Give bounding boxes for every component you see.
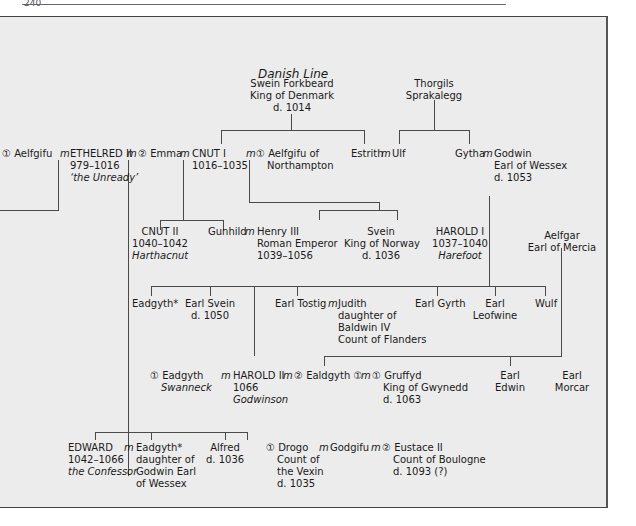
- person-godwin: Godwin Earl of Wessex d. 1053: [494, 148, 567, 184]
- marriage-symbol: m: [221, 370, 231, 382]
- person-eustace-ii: ② Eustace II Count of Boulogne d. 1093 (…: [382, 442, 486, 478]
- connector: [297, 286, 298, 296]
- person-ealdgyth: ② Ealdgyth ①: [294, 370, 362, 382]
- person-svein-norway: Svein King of Norway d. 1036: [344, 226, 418, 262]
- connector: [221, 130, 222, 144]
- person-judith: Judith daughter of Baldwin IV Count of F…: [338, 298, 427, 346]
- connector: [324, 356, 325, 366]
- person-earl-gyrth: Earl Gyrth: [415, 298, 466, 310]
- connector: [221, 130, 365, 131]
- person-earl-leofwine: Earl Leofwine: [472, 298, 518, 322]
- marriage-symbol: m: [60, 148, 70, 160]
- marriage-symbol: m: [371, 442, 381, 454]
- person-cnut-ii: CNUT II 1040–1042 Harthacnut: [132, 226, 188, 262]
- person-gytha: Gytha: [455, 148, 485, 160]
- person-drogo: ① Drogo Count of the Vexin d. 1035: [266, 442, 324, 490]
- connector: [183, 160, 184, 220]
- connector: [319, 210, 320, 220]
- connector: [379, 202, 380, 210]
- person-alfred: Alfred d. 1036: [206, 442, 244, 466]
- marriage-symbol: m: [245, 226, 255, 238]
- connector: [437, 286, 438, 296]
- connector: [128, 160, 129, 476]
- marriage-symbol: m: [180, 148, 190, 160]
- marriage-symbol: m: [127, 148, 137, 160]
- connector: [510, 356, 511, 366]
- person-earl-svein: Earl Svein d. 1050: [184, 298, 236, 322]
- person-harold-i: HAROLD I 1037–1040 Harefoot: [432, 226, 488, 262]
- connector: [489, 196, 490, 286]
- connector: [151, 286, 152, 296]
- connector: [225, 432, 226, 440]
- marriage-symbol: m: [381, 148, 391, 160]
- person-aelfgar: Aelfgar Earl of Mercia: [527, 230, 597, 254]
- person-gunhild: Gunhild: [208, 226, 247, 238]
- marriage-symbol: m: [246, 148, 256, 160]
- person-aelfgifu-northampton: ① Aelfgifu of Northampton: [256, 148, 334, 172]
- connector: [399, 130, 469, 131]
- person-godgifu: Godgifu: [330, 442, 369, 454]
- connector: [249, 160, 250, 202]
- connector: [0, 210, 59, 211]
- person-cnut-i: CNUT I 1016–1035: [192, 148, 248, 172]
- connector: [399, 130, 400, 144]
- marriage-symbol: m: [283, 370, 293, 382]
- marriage-symbol: m: [328, 298, 338, 310]
- person-gruffyd: ① Gruffyd King of Gwynedd d. 1063: [372, 370, 468, 406]
- marriage-symbol: m: [361, 370, 371, 382]
- person-earl-tostig: Earl Tostig: [275, 298, 326, 310]
- connector: [319, 210, 397, 211]
- connector: [397, 210, 398, 220]
- connector: [247, 432, 248, 440]
- connector: [58, 160, 59, 210]
- person-estrith: Estrith: [351, 148, 384, 160]
- person-earl-morcar: Earl Morcar: [550, 370, 594, 394]
- connector: [434, 100, 435, 130]
- person-harold-ii: HAROLD II 1066 Godwinson: [233, 370, 288, 406]
- top-rule: [22, 4, 506, 5]
- person-thorgils: Thorgils Sprakalegg: [404, 78, 464, 102]
- connector: [160, 220, 224, 221]
- connector: [254, 286, 255, 356]
- person-earl-edwin: Earl Edwin: [490, 370, 530, 394]
- person-eadgyth-wife: Eadgyth* daughter of Godwin Earl of Wess…: [136, 442, 196, 490]
- connector: [364, 130, 365, 144]
- connector: [324, 356, 562, 357]
- connector: [210, 286, 211, 296]
- marriage-symbol: m: [483, 148, 493, 160]
- person-henry-iii: Henry III Roman Emperor 1039–1056: [257, 226, 338, 262]
- marriage-symbol: m: [319, 442, 329, 454]
- connector: [495, 286, 496, 296]
- connector: [469, 130, 470, 144]
- connector: [249, 202, 379, 203]
- person-aelfgifu: ① Aelfgifu: [2, 148, 52, 160]
- marriage-symbol: m: [124, 442, 134, 454]
- connector: [545, 286, 546, 296]
- person-eadgyth-swanneck: ① Eadgyth Swanneck: [150, 370, 212, 394]
- person-ulf: Ulf: [392, 148, 406, 160]
- connector: [561, 248, 562, 356]
- connector: [291, 114, 292, 130]
- person-swein-forkbeard: Swein Forkbeard King of Denmark d. 1014: [246, 78, 338, 114]
- person-eadgyth: Eadgyth*: [132, 298, 178, 310]
- connector: [95, 432, 96, 440]
- person-wulf: Wulf: [535, 298, 557, 310]
- connector: [151, 432, 152, 440]
- person-emma: ② Emma: [138, 148, 182, 160]
